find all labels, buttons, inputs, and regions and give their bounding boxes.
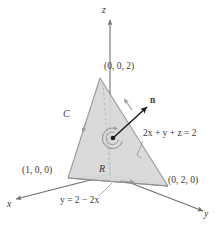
vertex-label-y-intercept: (0, 2, 0) [168, 176, 198, 186]
normal-vector-label: n [150, 96, 155, 106]
normal-base-point [111, 136, 116, 141]
projection-line-leader [99, 183, 112, 196]
figure-canvas: z x y (0, 0, 2) (1, 0, 0) (0, 2, 0) C R … [0, 0, 218, 230]
vertex-label-x-intercept: (1, 0, 0) [22, 166, 52, 176]
diagram-svg [0, 0, 218, 230]
projection-line-label: y = 2 − 2x [60, 196, 99, 206]
curve-C-arrow-right [125, 100, 132, 110]
curve-label-C: C [63, 109, 70, 119]
vertex-label-z-intercept: (0, 0, 2) [104, 62, 134, 72]
plane-equation-label: 2x + y + z = 2 [143, 129, 197, 139]
axis-label-y: y [204, 210, 208, 220]
axis-label-z: z [102, 6, 106, 16]
axis-label-x: x [7, 200, 11, 210]
region-label-R: R [99, 164, 105, 174]
